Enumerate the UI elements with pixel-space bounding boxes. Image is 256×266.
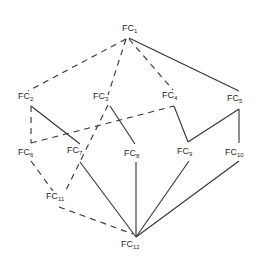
edge-fc4-fc9 xyxy=(174,106,188,142)
edge-fc10-fc12 xyxy=(136,161,239,237)
node-label-subscript: 9 xyxy=(189,151,193,157)
node-label-prefix: FC xyxy=(93,91,105,101)
node-fc12: FC12 xyxy=(121,239,140,250)
diagram-canvas: FC1FC2FC3FC4FC5FC6FC7FC8FC9FC10FC11FC12 xyxy=(0,0,256,266)
edge-fc6-fc11 xyxy=(31,161,53,191)
edge-fc11-fc12 xyxy=(59,207,133,234)
node-fc6: FC6 xyxy=(18,147,34,158)
node-fc8: FC8 xyxy=(124,148,140,159)
edge-fc1-fc3 xyxy=(108,39,126,95)
edge-fc3-fc8 xyxy=(110,106,135,144)
node-label-prefix: FC xyxy=(124,148,136,158)
node-fc5: FC5 xyxy=(227,93,243,104)
node-fc10: FC10 xyxy=(225,147,244,158)
node-label-subscript: 6 xyxy=(30,152,34,158)
edge-fc6-fc4 xyxy=(31,106,174,143)
lattice-graph: FC1FC2FC3FC4FC5FC6FC7FC8FC9FC10FC11FC12 xyxy=(0,0,256,266)
node-label-subscript: 7 xyxy=(79,150,83,156)
node-fc9: FC9 xyxy=(177,146,193,157)
node-label-subscript: 1 xyxy=(134,28,138,34)
node-label-prefix: FC xyxy=(227,93,239,103)
node-fc2: FC2 xyxy=(18,91,34,102)
node-label-subscript: 11 xyxy=(58,196,65,202)
node-label-subscript: 4 xyxy=(174,95,178,101)
node-label-subscript: 12 xyxy=(133,244,140,250)
node-label-subscript: 10 xyxy=(237,152,244,158)
edge-fc1-fc4 xyxy=(129,39,173,90)
node-fc3: FC3 xyxy=(93,91,109,102)
node-fc4: FC4 xyxy=(162,90,178,101)
edge-fc9-fc5 xyxy=(188,109,239,142)
edges-layer xyxy=(28,38,239,237)
node-label-prefix: FC xyxy=(162,90,174,100)
edge-fc7-fc12 xyxy=(80,162,136,237)
node-label-subscript: 3 xyxy=(105,96,109,102)
node-label-prefix: FC xyxy=(46,191,58,201)
node-fc11: FC11 xyxy=(46,191,65,202)
node-label-prefix: FC xyxy=(18,91,30,101)
node-fc1: FC1 xyxy=(122,23,138,34)
node-label-prefix: FC xyxy=(18,147,30,157)
node-label-prefix: FC xyxy=(225,147,237,157)
node-label-subscript: 5 xyxy=(239,98,243,104)
node-fc7: FC7 xyxy=(67,145,83,156)
nodes-layer: FC1FC2FC3FC4FC5FC6FC7FC8FC9FC10FC11FC12 xyxy=(18,23,244,250)
edge-fc1-fc5 xyxy=(129,38,239,91)
node-label-prefix: FC xyxy=(122,23,134,33)
node-label-prefix: FC xyxy=(67,145,79,155)
node-label-subscript: 8 xyxy=(136,153,140,159)
node-label-prefix: FC xyxy=(121,239,133,249)
edge-fc9-fc12 xyxy=(136,161,189,237)
node-label-subscript: 2 xyxy=(30,96,34,102)
edge-fc2-fc7 xyxy=(31,106,80,144)
node-label-prefix: FC xyxy=(177,146,189,156)
